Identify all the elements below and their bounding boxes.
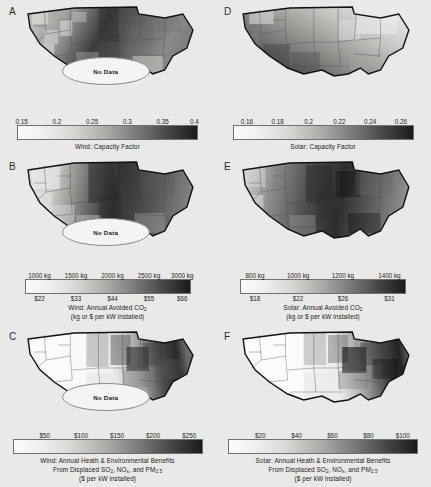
caption-line-a-0: Wind: Capacity Factor: [17, 143, 198, 151]
tick-b-kg-0: 1000 kg: [28, 272, 50, 279]
no-data-label: No Data: [93, 68, 118, 75]
tick-f-2: $60: [327, 432, 338, 439]
tick-a-1: 0.2: [52, 118, 61, 125]
tick-b-kg-1: 1500 kg: [65, 272, 87, 279]
colorbar-block-f: $20 $40 $60 $80 $100 Solar: Annual Heath…: [215, 429, 431, 483]
colorbar-caption-a: Wind: Capacity Factor: [17, 143, 198, 151]
tick-d-1: 0.18: [272, 118, 284, 125]
tick-e-usd-0: $18: [250, 295, 261, 302]
colorbar-caption-d: Solar: Capacity Factor: [233, 143, 414, 151]
tick-f-1: $40: [291, 432, 302, 439]
colorbar-gradient-f: [228, 439, 418, 454]
panel-b-wind-avoided-co2: B: [0, 155, 215, 325]
tick-b-usd-3: $55: [144, 295, 155, 302]
colorbar-ticks-d: 0.16 0.18 0.2 0.22 0.24 0.26: [233, 115, 414, 125]
tick-f-3: $80: [363, 432, 374, 439]
tick-a-0: 0.15: [15, 118, 27, 125]
tick-d-3: 0.22: [333, 118, 345, 125]
tick-a-3: 0.3: [123, 118, 132, 125]
no-data-ellipse: No Data: [62, 383, 150, 411]
tick-b-usd-4: $66: [177, 295, 188, 302]
tick-e-kg-0: 800 kg: [245, 272, 264, 279]
tick-e-usd-1: $22: [293, 295, 304, 302]
tick-d-0: 0.16: [241, 118, 253, 125]
colorbar-ticks-b-kg: 1000 kg 1500 kg 2000 kg 2500 kg 3000 kg: [25, 269, 191, 279]
map-wind-avoided-co2: No Data: [14, 159, 205, 267]
colorbar-block-b: 1000 kg 1500 kg 2000 kg 2500 kg 3000 kg …: [0, 269, 215, 321]
caption-line-b-1: (kg or $ per kW installed): [25, 313, 191, 321]
tick-f-0: $20: [255, 432, 266, 439]
us-choropleth-svg: [229, 159, 421, 267]
colorbar-caption-c: Wind: Annual Heath & Environmental Benef…: [13, 457, 203, 483]
tick-b-kg-3: 2500 kg: [138, 272, 160, 279]
tick-c-3: $200: [146, 432, 160, 439]
panel-a-wind-capacity-factor: A: [0, 0, 215, 155]
caption-c-sub-pm: 2.5: [155, 469, 162, 474]
tick-e-usd-2: $26: [338, 295, 349, 302]
map-wind-capacity-factor: No Data: [14, 4, 205, 103]
tick-b-usd-1: $33: [71, 295, 82, 302]
tick-a-4: 0.35: [157, 118, 169, 125]
tick-d-2: 0.2: [304, 118, 313, 125]
tick-e-kg-1: 1000 kg: [287, 272, 309, 279]
us-choropleth-svg: [229, 329, 421, 429]
caption-e-text: Solar: Annual Avoided CO: [284, 304, 360, 311]
panel-e-solar-avoided-co2: E: [215, 155, 431, 325]
tick-e-kg-3: 1400 kg: [378, 272, 400, 279]
map-wind-health-benefits: No Data: [14, 329, 205, 429]
colorbar-ticks-a: 0.15 0.2 0.25 0.3 0.35 0.4: [17, 115, 198, 125]
caption-line-f-2: ($ per kW installed): [228, 475, 418, 483]
no-data-label: No Data: [93, 394, 118, 401]
panel-c-wind-health-benefits: C: [0, 325, 215, 487]
tick-f-4: $100: [396, 432, 410, 439]
colorbar-caption-f: Solar: Annual Heath & Environmental Bene…: [228, 457, 418, 483]
tick-d-5: 0.26: [395, 118, 407, 125]
colorbar-block-e: 800 kg 1000 kg 1200 kg 1400 kg $18 $22 $…: [215, 269, 431, 321]
no-data-ellipse: No Data: [62, 218, 150, 246]
map-solar-avoided-co2: [229, 159, 421, 267]
colorbar-gradient-d: [233, 125, 414, 140]
colorbar-gradient-e: [240, 279, 406, 294]
caption-line-b-0: Wind: Annual Avoided CO2: [25, 304, 191, 313]
no-data-ellipse: No Data: [62, 57, 150, 85]
tick-c-1: $100: [74, 432, 88, 439]
caption-line-e-0: Solar: Annual Avoided CO2: [240, 304, 406, 313]
tick-b-usd-2: $44: [107, 295, 118, 302]
us-choropleth-svg: [14, 159, 205, 267]
colorbar-ticks-e-dollars: $18 $22 $26 $31: [240, 294, 406, 303]
caption-c-sub-nox: x: [127, 469, 129, 474]
caption-line-f-0: Solar: Annual Heath & Environmental Bene…: [228, 457, 418, 465]
tick-e-kg-2: 1200 kg: [332, 272, 354, 279]
colorbar-ticks-f: $20 $40 $60 $80 $100: [228, 429, 418, 439]
tick-b-usd-0: $22: [34, 295, 45, 302]
panel-d-solar-capacity-factor: D: [215, 0, 431, 155]
caption-line-c-2: ($ per kW installed): [13, 475, 203, 483]
caption-c-sub-so2: 2: [110, 469, 113, 474]
tick-c-4: $250: [182, 432, 196, 439]
caption-line-c-0: Wind: Annual Heath & Environmental Benef…: [13, 457, 203, 465]
map-solar-health-benefits: [229, 329, 421, 429]
us-choropleth-svg: [14, 4, 205, 103]
colorbar-gradient-a: [17, 125, 198, 140]
caption-f-sub-pm: 2.5: [371, 469, 378, 474]
figure-grid: A: [0, 0, 431, 487]
tick-a-5: 0.4: [190, 118, 199, 125]
us-choropleth-svg: [229, 4, 421, 103]
caption-line-c-1: From Displaced SO2, NOx, and PM2.5: [13, 466, 203, 475]
colorbar-ticks-e-kg: 800 kg 1000 kg 1200 kg 1400 kg: [240, 269, 406, 279]
caption-line-e-1: (kg or $ per kW installed): [240, 313, 406, 321]
map-solar-capacity-factor: [229, 4, 421, 103]
caption-line-f-1: From Displaced SO2, NOx, and PM2.5: [228, 466, 418, 475]
colorbar-gradient-c: [13, 439, 203, 454]
caption-e-sub: 2: [360, 307, 363, 312]
panel-f-solar-health-benefits: F: [215, 325, 431, 487]
colorbar-gradient-b: [25, 279, 191, 294]
tick-d-4: 0.24: [364, 118, 376, 125]
tick-c-0: $50: [40, 432, 51, 439]
caption-f-sub-so2: 2: [326, 469, 329, 474]
tick-c-2: $150: [110, 432, 124, 439]
caption-b-text: Wind: Annual Avoided CO: [68, 304, 144, 311]
colorbar-block-a: 0.15 0.2 0.25 0.3 0.35 0.4 Wind: Capacit…: [0, 115, 215, 151]
tick-b-kg-2: 2000 kg: [101, 272, 123, 279]
colorbar-ticks-c: $50 $100 $150 $200 $250: [13, 429, 203, 439]
